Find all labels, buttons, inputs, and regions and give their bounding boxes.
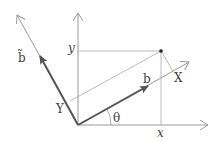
label-X: X: [174, 72, 183, 84]
label-y: y: [68, 42, 75, 54]
label-Y: Y: [56, 103, 64, 115]
X-projection-line: [161, 51, 173, 71]
theta-arc: [107, 109, 111, 125]
label-b-tilde: b̃: [18, 52, 26, 64]
label-x: x: [157, 127, 164, 139]
rotated-coordinate-diagram: y x X Y b b̃ θ: [0, 0, 221, 142]
label-b: b: [143, 73, 151, 85]
point: [159, 49, 163, 53]
label-theta: θ: [113, 112, 120, 124]
diagram-canvas: [0, 0, 221, 142]
